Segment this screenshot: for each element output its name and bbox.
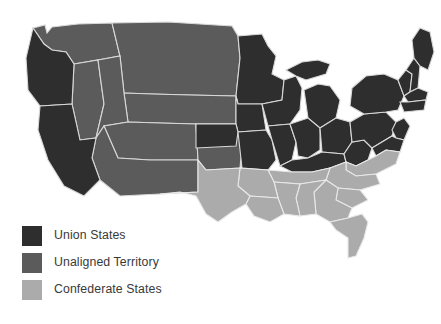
region-florida	[330, 214, 368, 258]
legend-label-unaligned: Unaligned Territory	[54, 256, 159, 268]
legend-item-unaligned[interactable]: Unaligned Territory	[22, 249, 222, 276]
map-legend: Union States Unaligned Territory Confede…	[22, 222, 222, 303]
region-new-york	[350, 74, 404, 114]
legend-item-union[interactable]: Union States	[22, 222, 222, 249]
region-connecticut-rhode-island	[400, 100, 426, 112]
region-dakota-territory	[112, 22, 240, 96]
region-louisiana	[246, 196, 284, 222]
region-indiana	[290, 118, 320, 158]
unaligned-swatch	[22, 253, 42, 273]
legend-label-confederate: Confederate States	[54, 283, 162, 295]
region-nebraska-territory	[124, 93, 236, 124]
civil-war-map-figure: Union States Unaligned Territory Confede…	[0, 0, 441, 324]
union-swatch	[22, 226, 42, 246]
region-kansas	[196, 124, 238, 148]
legend-item-confederate[interactable]: Confederate States	[22, 276, 222, 303]
region-minnesota	[236, 34, 284, 104]
region-colorado-territory	[104, 122, 198, 160]
confederate-swatch	[22, 280, 42, 300]
legend-label-union: Union States	[54, 229, 126, 241]
